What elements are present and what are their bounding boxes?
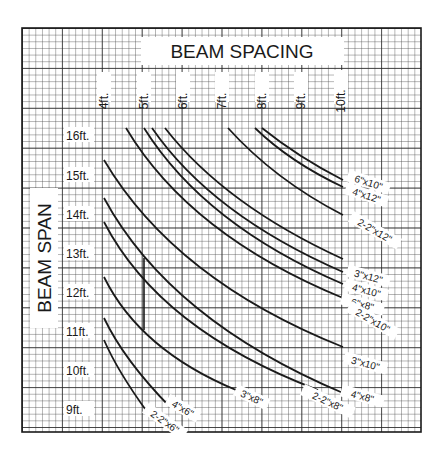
svg-text:10ft.: 10ft. — [334, 89, 348, 112]
svg-text:6ft.: 6ft. — [176, 93, 190, 110]
chart-title: BEAM SPACING — [170, 41, 313, 62]
svg-text:13ft.: 13ft. — [66, 247, 89, 261]
svg-text:15ft.: 15ft. — [66, 169, 89, 183]
svg-text:9ft.: 9ft. — [294, 93, 308, 110]
svg-text:7ft.: 7ft. — [215, 93, 229, 110]
svg-text:10ft.: 10ft. — [66, 364, 89, 378]
svg-text:4ft.: 4ft. — [97, 93, 111, 110]
beam-span-chart: BEAM SPACING BEAM SPAN 4ft. 5ft. 6ft. 7f… — [0, 0, 444, 456]
svg-text:16ft.: 16ft. — [66, 129, 89, 143]
svg-text:12ft.: 12ft. — [66, 286, 89, 300]
x-axis-title: BEAM SPACING — [141, 37, 344, 65]
svg-text:11ft.: 11ft. — [66, 325, 88, 339]
svg-text:14ft.: 14ft. — [66, 208, 89, 222]
svg-text:9ft.: 9ft. — [66, 403, 83, 417]
svg-text:8ft.: 8ft. — [255, 93, 269, 110]
svg-text:5ft.: 5ft. — [137, 93, 151, 110]
svg-text:BEAM SPAN: BEAM SPAN — [34, 203, 55, 312]
y-axis-title: BEAM SPAN — [30, 188, 58, 328]
